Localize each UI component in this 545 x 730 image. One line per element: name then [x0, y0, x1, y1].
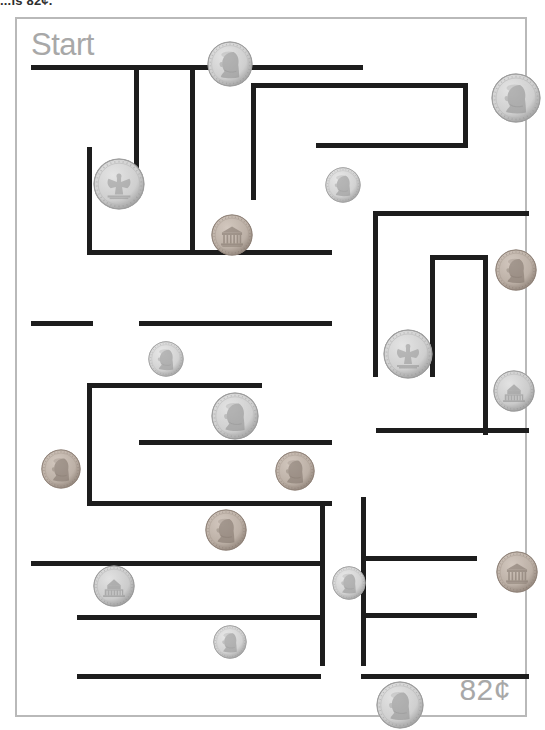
- maze-wall: [361, 556, 477, 561]
- maze-wall: [320, 506, 325, 666]
- coin-penny[interactable]: [275, 451, 315, 491]
- maze-sheet: Start 82¢: [15, 17, 527, 717]
- maze-wall: [251, 83, 256, 200]
- maze-wall: [376, 428, 529, 433]
- coin-penny[interactable]: [205, 509, 247, 551]
- coin-dime[interactable]: [332, 566, 366, 600]
- maze-wall: [483, 255, 488, 435]
- maze-wall: [430, 255, 487, 260]
- maze-wall: [316, 143, 468, 148]
- coin-nickel[interactable]: [93, 565, 135, 607]
- maze-wall: [139, 440, 332, 445]
- maze-wall: [87, 501, 332, 506]
- maze-wall: [87, 383, 262, 388]
- coin-quarter[interactable]: [383, 329, 433, 379]
- coin-quarter[interactable]: [211, 392, 259, 440]
- total-amount-label: 82¢: [459, 673, 511, 707]
- coin-penny[interactable]: [41, 449, 81, 489]
- maze-wall: [77, 615, 325, 620]
- maze-wall: [87, 147, 92, 255]
- maze-wall: [361, 613, 477, 618]
- start-label: Start: [31, 27, 94, 63]
- coin-penny[interactable]: [495, 249, 537, 291]
- maze-wall: [251, 83, 468, 88]
- coin-dime[interactable]: [148, 341, 184, 377]
- maze-wall: [31, 561, 321, 566]
- maze-wall: [373, 211, 378, 377]
- coin-penny[interactable]: [211, 214, 253, 256]
- maze-wall: [87, 250, 332, 255]
- coin-quarter[interactable]: [376, 681, 424, 729]
- maze-wall: [31, 321, 93, 326]
- maze-canvas: Start 82¢: [17, 19, 529, 719]
- coin-quarter[interactable]: [93, 158, 145, 210]
- coin-dime[interactable]: [325, 167, 361, 203]
- maze-wall: [463, 83, 468, 147]
- maze-wall: [31, 65, 363, 70]
- coin-quarter[interactable]: [491, 73, 541, 123]
- coin-quarter[interactable]: [207, 41, 253, 87]
- coin-nickel[interactable]: [493, 370, 535, 412]
- maze-wall: [190, 65, 195, 251]
- coin-dime[interactable]: [213, 625, 247, 659]
- maze-wall: [87, 383, 92, 505]
- coin-penny[interactable]: [496, 551, 538, 593]
- worksheet-page: ...is 82¢. Start 82¢: [0, 0, 545, 730]
- maze-wall: [77, 674, 321, 679]
- instruction-text: ...is 82¢.: [0, 0, 200, 9]
- maze-wall: [139, 321, 332, 326]
- maze-wall: [373, 211, 529, 216]
